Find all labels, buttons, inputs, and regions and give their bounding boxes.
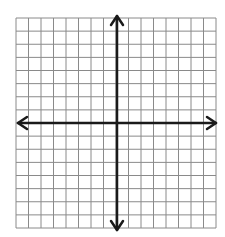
coordinate-plane bbox=[0, 0, 225, 237]
